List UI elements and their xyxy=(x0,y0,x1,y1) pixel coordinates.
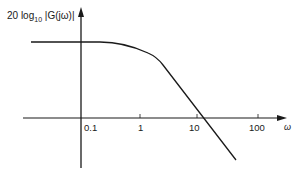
y-axis-label-subscript: 10 xyxy=(34,16,42,23)
x-tick-label-1: 1 xyxy=(138,122,143,133)
x-tick-label-10: 10 xyxy=(189,122,200,133)
y-axis-label-suffix: |G(jω)| xyxy=(42,10,74,21)
y-axis-label-prefix: 20 log xyxy=(7,10,34,21)
x-axis xyxy=(23,114,287,121)
x-tick-label-0.1: 0.1 xyxy=(84,122,97,133)
magnitude-curve xyxy=(31,42,236,160)
bode-plot: 0.1 1 10 100 ω 20 log10 |G(jω)| xyxy=(0,0,302,177)
y-axis-label: 20 log10 |G(jω)| xyxy=(7,10,75,23)
x-axis-label: ω xyxy=(284,122,291,132)
y-axis xyxy=(78,7,84,168)
x-tick-label-100: 100 xyxy=(249,122,265,133)
y-axis-arrow-icon xyxy=(78,7,84,17)
x-axis-arrow-icon xyxy=(277,115,287,121)
